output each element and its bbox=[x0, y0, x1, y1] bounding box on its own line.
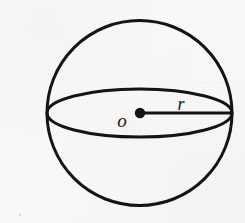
center-point-dot bbox=[135, 108, 145, 118]
radius-label: r bbox=[177, 94, 185, 114]
center-point-label: o bbox=[117, 110, 127, 131]
sphere-diagram-canvas: o r bbox=[0, 0, 245, 223]
scan-speck-artifact bbox=[19, 214, 21, 216]
sphere-diagram-figure: o r bbox=[0, 0, 245, 223]
